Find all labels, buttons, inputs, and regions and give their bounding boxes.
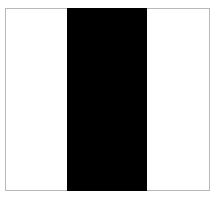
- center-black-bar: [67, 8, 147, 191]
